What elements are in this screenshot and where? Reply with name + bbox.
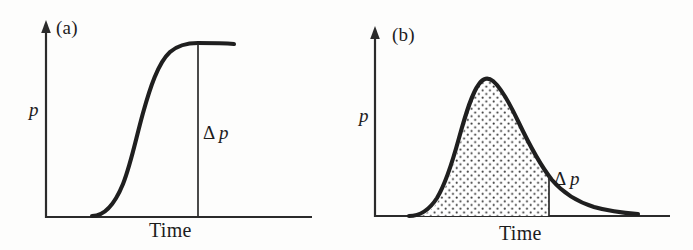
panel-a bbox=[41, 20, 312, 218]
panel-b-label: (b) bbox=[392, 24, 415, 46]
panel-b-y-axis-label: p bbox=[359, 105, 369, 127]
panel-b-x-axis-label: Time bbox=[499, 222, 542, 245]
panel-a-y-axis-label: p bbox=[29, 99, 39, 121]
panel-a-delta-p-label: Δ p bbox=[203, 122, 229, 144]
panel-b-delta-p-label: Δ p bbox=[554, 168, 580, 190]
panel-b-y-axis-arrowhead bbox=[370, 26, 380, 39]
figure-svg bbox=[0, 0, 693, 250]
panel-b bbox=[370, 26, 670, 220]
figure-container: (a) p Time Δ p (b) p Time Δ p bbox=[0, 0, 693, 250]
panel-a-y-axis-arrowhead bbox=[41, 20, 51, 33]
panel-a-label: (a) bbox=[56, 17, 78, 39]
panel-a-x-axis-label: Time bbox=[149, 219, 192, 242]
panel-b-shaded-area bbox=[405, 60, 565, 220]
